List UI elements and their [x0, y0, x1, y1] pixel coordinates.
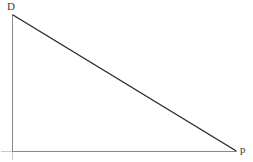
x-axis-label-p: p [240, 144, 246, 155]
figure-canvas [0, 0, 253, 162]
demand-curve-figure: D p [0, 0, 253, 162]
demand-curve-line [13, 15, 236, 151]
y-axis-label-d: D [7, 1, 15, 12]
curve-group [13, 15, 236, 151]
axes-group [1, 15, 237, 161]
